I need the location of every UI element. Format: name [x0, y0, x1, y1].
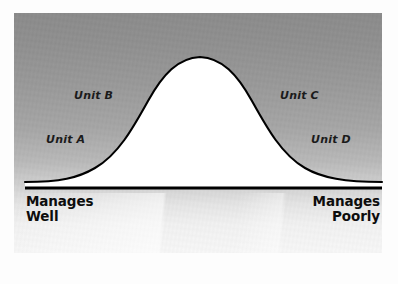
unit-a-label: Unit A: [46, 133, 85, 146]
figure-canvas: Unit A Unit B Unit C Unit D Manages Well…: [0, 0, 398, 284]
unit-b-label: Unit B: [74, 89, 113, 102]
unit-c-label: Unit C: [280, 89, 319, 102]
axis-label-manages-poorly: Manages Poorly: [313, 194, 380, 224]
unit-d-label: Unit D: [311, 133, 351, 146]
axis-label-manages-well: Manages Well: [26, 194, 93, 224]
bell-curve-area: [25, 57, 382, 188]
